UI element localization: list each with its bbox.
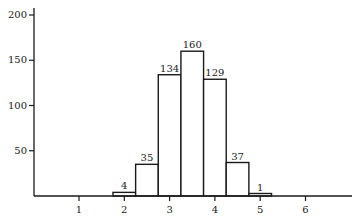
bar-value-label: 129 bbox=[205, 67, 224, 78]
bar-value-label: 160 bbox=[183, 39, 202, 50]
bar-value-label: 35 bbox=[141, 152, 154, 163]
y-axis-ticks: 50100150200 bbox=[8, 9, 34, 156]
bar-value-label: 1 bbox=[257, 182, 263, 193]
histogram-bars bbox=[113, 51, 272, 196]
histogram-bar bbox=[181, 51, 204, 196]
y-tick-label: 150 bbox=[8, 54, 27, 65]
bar-value-label: 134 bbox=[160, 63, 179, 74]
x-axis-ticks: 123456 bbox=[76, 196, 309, 215]
x-tick-label: 4 bbox=[212, 204, 218, 215]
histogram-bar bbox=[204, 79, 227, 196]
histogram-bar bbox=[226, 163, 249, 196]
x-tick-label: 2 bbox=[121, 204, 127, 215]
bar-value-label: 4 bbox=[121, 180, 127, 191]
x-tick-label: 1 bbox=[76, 204, 82, 215]
histogram-chart: 435134160129371 50100150200 123456 bbox=[0, 0, 364, 224]
x-tick-label: 6 bbox=[302, 204, 308, 215]
histogram-bar bbox=[136, 164, 159, 196]
x-tick-label: 5 bbox=[257, 204, 263, 215]
y-tick-label: 50 bbox=[14, 145, 27, 156]
y-tick-label: 100 bbox=[8, 100, 27, 111]
x-tick-label: 3 bbox=[166, 204, 172, 215]
bar-value-label: 37 bbox=[231, 151, 244, 162]
histogram-bar bbox=[158, 75, 181, 196]
y-tick-label: 200 bbox=[8, 9, 27, 20]
